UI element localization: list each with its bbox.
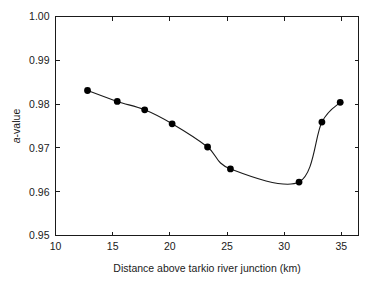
plot-frame — [56, 17, 359, 236]
data-point-1[interactable] — [114, 98, 121, 105]
y-tick-label-0.98: 0.98 — [29, 98, 50, 110]
data-point-6[interactable] — [296, 179, 303, 186]
y-tick-label-0.95: 0.95 — [29, 229, 50, 241]
y-tick-label-0.97: 0.97 — [29, 142, 50, 154]
data-point-3[interactable] — [169, 120, 176, 127]
y-tick-label-0.99: 0.99 — [29, 54, 50, 66]
data-point-0[interactable] — [84, 87, 91, 94]
x-tick-label-25: 25 — [221, 240, 233, 252]
x-tick-label-10: 10 — [50, 240, 62, 252]
y-axis-title: a-value — [10, 109, 22, 144]
y-tick-label-0.96: 0.96 — [29, 186, 50, 198]
data-point-2[interactable] — [141, 106, 148, 113]
data-point-7[interactable] — [319, 119, 326, 126]
data-point-5[interactable] — [227, 166, 234, 173]
x-tick-label-15: 15 — [107, 240, 119, 252]
chart-figure: 1015202530350.950.960.970.980.991.00Dist… — [0, 0, 378, 287]
x-tick-label-30: 30 — [278, 240, 290, 252]
x-axis-title: Distance above tarkio river junction (km… — [113, 262, 300, 274]
data-point-4[interactable] — [204, 144, 211, 151]
scatter-line-plot: 1015202530350.950.960.970.980.991.00Dist… — [0, 0, 378, 287]
x-tick-label-20: 20 — [164, 240, 176, 252]
data-point-8[interactable] — [337, 99, 344, 106]
data-curve — [88, 91, 341, 185]
y-tick-label-1.00: 1.00 — [29, 10, 50, 22]
x-tick-label-35: 35 — [336, 240, 348, 252]
